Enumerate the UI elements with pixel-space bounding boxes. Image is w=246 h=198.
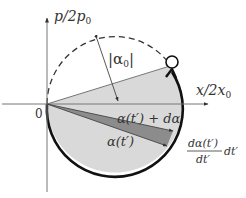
phase-space-diagram: p/2p0 x/2x0 0 |α0| α(t′) + dα α(t′) dα(t…: [0, 0, 246, 198]
alpha0-label: |α0|: [108, 50, 134, 69]
origin-label: 0: [35, 107, 43, 121]
x-axis-label: x/2x0: [196, 82, 231, 100]
derivative-dt-suffix: dt′: [224, 145, 238, 158]
y-axis-label: p/2p0: [54, 8, 92, 26]
current-state-marker: [166, 56, 178, 68]
alpha-t-label: α(t′): [107, 134, 134, 149]
derivative-numerator: dα(t′): [188, 137, 218, 150]
derivative-denominator: dt′: [196, 153, 210, 166]
alpha-t-plus-dalpha-label: α(t′) + dα: [117, 111, 181, 126]
